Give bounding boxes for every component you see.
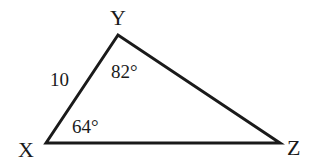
vertex-label-x: X <box>18 137 34 162</box>
vertex-label-z: Z <box>287 135 300 160</box>
vertex-label-y: Y <box>110 5 126 30</box>
angle-label-y: 82° <box>111 61 138 82</box>
triangle-diagram: Y X Z 10 82° 64° <box>0 0 313 164</box>
side-label-xy: 10 <box>50 69 69 90</box>
angle-label-x: 64° <box>72 116 99 137</box>
